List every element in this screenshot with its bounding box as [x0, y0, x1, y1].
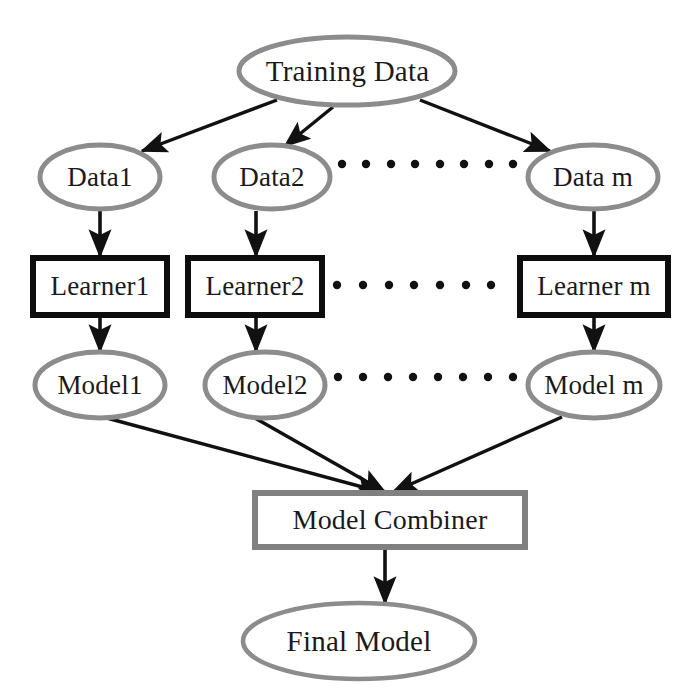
edge-model-2-to-combiner — [253, 417, 385, 492]
learner-m-box — [520, 258, 668, 315]
model-m-ellipse — [528, 352, 660, 418]
data-row-ellipsis — [338, 160, 517, 168]
data-1-ellipse — [40, 145, 160, 209]
model-row-ellipsis — [334, 373, 517, 381]
edge-training-data-to-data-m — [420, 100, 550, 151]
training-data-ellipse — [239, 37, 455, 105]
model-2-ellipse — [205, 352, 325, 418]
diagram-graphics — [0, 0, 698, 700]
data-2-ellipse — [214, 145, 330, 209]
learner-row-ellipsis — [333, 281, 495, 289]
learner-1-box — [33, 258, 167, 315]
final-model-ellipse — [243, 603, 475, 679]
edge-model-1-to-combiner — [103, 417, 381, 492]
data-m-ellipse — [528, 145, 658, 209]
edge-training-data-to-data-2 — [285, 107, 333, 146]
node-shape-layer — [33, 37, 668, 679]
model-1-ellipse — [35, 352, 165, 418]
edge-training-data-to-data-1 — [142, 100, 277, 151]
diagram-canvas: Training Data Data1 Data2 Data m Learner… — [0, 0, 698, 700]
learner-2-box — [188, 258, 322, 315]
model-combiner-box — [255, 493, 525, 547]
edge-model-m-to-combiner — [393, 417, 562, 492]
